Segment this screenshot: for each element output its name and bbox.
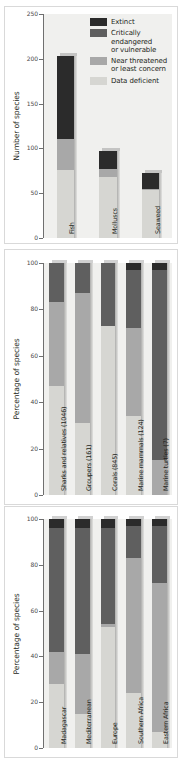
y-tick-label-panel-a-0: 0 — [14, 235, 38, 241]
bar-segment-panel-c-4-3 — [152, 519, 167, 526]
y-tick-panel-b-5 — [39, 263, 43, 264]
bar-segment-panel-c-0-1 — [49, 652, 64, 684]
legend-item-0: Extinct — [90, 18, 176, 26]
y-tick-panel-c-0 — [39, 748, 43, 749]
y-tick-label-panel-c-1: 20 — [14, 699, 38, 705]
y-tick-panel-b-1 — [39, 449, 43, 450]
legend-swatch-0 — [90, 18, 107, 26]
legend-label-3: Data deficient — [111, 77, 159, 85]
bar-segment-panel-a-2-1 — [142, 189, 159, 190]
y-tick-panel-a-5 — [39, 14, 43, 15]
y-tick-panel-a-0 — [39, 238, 43, 239]
category-label-panel-a-0: Fish — [68, 222, 76, 234]
bar-segment-panel-c-3-3 — [126, 519, 141, 526]
bar-top-panel-c-0 — [52, 516, 67, 519]
bar-top-panel-a-0 — [60, 53, 77, 56]
y-tick-label-panel-b-1: 20 — [14, 446, 38, 452]
y-tick-label-panel-b-4: 80 — [14, 306, 38, 312]
category-label-panel-b-4: Marine turtles (7) — [162, 438, 170, 491]
bar-segment-panel-b-1-1 — [75, 293, 90, 423]
y-tick-panel-c-5 — [39, 519, 43, 520]
bar-top-panel-b-1 — [78, 260, 93, 263]
bar-segment-panel-c-0-3 — [49, 519, 64, 528]
bar-segment-panel-c-3-2 — [126, 526, 141, 558]
category-label-panel-c-0: Madagascar — [60, 707, 68, 744]
y-tick-panel-c-4 — [39, 565, 43, 566]
category-label-panel-c-2: Europe — [111, 722, 119, 744]
bar-shadow-panel-c-2 — [115, 519, 118, 748]
bar-top-panel-c-4 — [155, 516, 170, 519]
legend-swatch-2 — [90, 57, 107, 65]
bar-top-panel-b-4 — [155, 260, 170, 263]
bar-segment-panel-a-0-1 — [57, 139, 74, 169]
category-label-panel-c-1: Mediterranean — [85, 699, 93, 744]
y-tick-panel-c-3 — [39, 611, 43, 612]
y-tick-label-panel-a-1: 50 — [14, 190, 38, 196]
bar-segment-panel-c-2-2 — [101, 528, 116, 624]
bar-segment-panel-a-2-3 — [142, 173, 159, 189]
bar-segment-panel-c-0-2 — [49, 528, 64, 652]
category-label-panel-b-2: Corals (845) — [111, 454, 119, 491]
legend-item-2: Near threatened or least concern — [90, 57, 176, 73]
bar-segment-panel-c-2-3 — [101, 519, 116, 528]
bar-top-panel-c-1 — [78, 516, 93, 519]
bar-segment-panel-a-1-3 — [99, 151, 116, 169]
y-tick-panel-b-4 — [39, 309, 43, 310]
bar-segment-panel-a-1-1 — [99, 169, 116, 177]
category-label-panel-c-3: Southern Africa — [137, 697, 145, 744]
category-label-panel-a-1: Molluscs — [111, 208, 119, 234]
category-label-panel-c-4: Eastern Africa — [162, 702, 170, 744]
bar-top-panel-b-0 — [52, 260, 67, 263]
bar-panel-c-2 — [101, 519, 116, 748]
legend-item-3: Data deficient — [90, 77, 176, 85]
y-tick-panel-c-1 — [39, 702, 43, 703]
bar-segment-panel-b-3-2 — [126, 270, 141, 328]
y-tick-panel-a-1 — [39, 193, 43, 194]
y-axis-title-panel-a: Number of species — [12, 91, 21, 160]
y-axis-title-panel-b: Percentage of species — [12, 338, 21, 419]
y-axis-line-panel-b — [43, 263, 44, 495]
bar-segment-panel-c-1-2 — [75, 528, 90, 654]
bar-segment-panel-b-0-2 — [49, 263, 64, 302]
y-tick-label-panel-b-5: 100 — [14, 260, 38, 266]
category-label-panel-b-1: Groupers (161) — [85, 445, 93, 491]
category-label-panel-b-3: Marine mammals (124) — [137, 419, 145, 491]
bar-segment-panel-c-3-1 — [126, 558, 141, 693]
bar-top-panel-b-2 — [104, 260, 119, 263]
y-tick-label-panel-b-0: 0 — [14, 492, 38, 498]
bar-segment-panel-b-3-1 — [126, 328, 141, 416]
legend-label-1: Critically endangered or vulnerable — [111, 29, 156, 54]
legend-label-0: Extinct — [111, 18, 135, 26]
y-tick-panel-c-2 — [39, 656, 43, 657]
category-label-panel-a-2: Seaweed — [154, 206, 162, 234]
y-tick-label-panel-c-5: 100 — [14, 516, 38, 522]
category-label-panel-b-0: Sharks and relatives (1046) — [60, 407, 68, 491]
bar-segment-panel-b-1-2 — [75, 263, 90, 293]
y-tick-label-panel-c-4: 80 — [14, 562, 38, 568]
y-tick-label-panel-c-0: 0 — [14, 745, 38, 751]
bar-top-panel-a-2 — [145, 170, 162, 173]
y-tick-panel-a-3 — [39, 104, 43, 105]
bar-segment-panel-c-1-3 — [75, 519, 90, 528]
legend-label-2: Near threatened or least concern — [111, 57, 167, 73]
y-axis-title-panel-c: Percentage of species — [12, 593, 21, 674]
bar-top-panel-c-3 — [129, 516, 144, 519]
legend-swatch-1 — [90, 29, 107, 37]
y-tick-panel-a-2 — [39, 148, 43, 149]
bar-top-panel-b-3 — [129, 260, 144, 263]
legend-item-1: Critically endangered or vulnerable — [90, 29, 176, 54]
bar-segment-panel-b-4-2 — [152, 270, 167, 460]
y-tick-label-panel-a-4: 200 — [14, 56, 38, 62]
y-tick-label-panel-a-5: 250 — [14, 11, 38, 17]
y-tick-panel-b-3 — [39, 356, 43, 357]
y-axis-line-panel-a — [43, 14, 44, 238]
figure-stacked-bar-charts: 050100150200250Number of speciesFishMoll… — [0, 0, 182, 760]
y-axis-line-panel-c — [43, 519, 44, 748]
y-tick-panel-b-2 — [39, 402, 43, 403]
bar-top-panel-c-2 — [104, 516, 119, 519]
bar-shadow-panel-a-0 — [74, 56, 77, 238]
chart-legend: ExtinctCritically endangered or vulnerab… — [90, 18, 176, 88]
y-tick-panel-b-0 — [39, 495, 43, 496]
bar-segment-panel-a-0-3 — [57, 56, 74, 139]
y-tick-panel-a-4 — [39, 59, 43, 60]
